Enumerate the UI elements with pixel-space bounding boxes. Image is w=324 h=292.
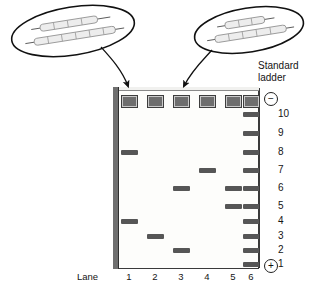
standard-ladder-caption-line2: ladder — [258, 72, 322, 84]
callout-right-label: 2, 6 — [223, 39, 263, 50]
ladder-rung-label-10: 10 — [278, 109, 292, 119]
ladder-rung-label-4: 4 — [278, 216, 292, 226]
ladder-band-9 — [243, 131, 260, 136]
gel-slab — [113, 87, 259, 269]
well-lane-3 — [173, 95, 190, 108]
ladder-band-3 — [243, 234, 260, 239]
ladder-rung-label-8: 8 — [278, 147, 292, 157]
callout-left-arrow — [101, 47, 128, 86]
callout-left-label: 4, 8 — [45, 39, 85, 50]
negative-electrode-icon: − — [264, 92, 278, 106]
ladder-band-2 — [243, 248, 260, 253]
well-lane-6 — [243, 95, 260, 108]
positive-electrode-icon: + — [264, 259, 278, 273]
lane-label-4: 4 — [198, 272, 216, 282]
band-lane-3-rung-2 — [173, 248, 190, 253]
well-lane-1 — [121, 95, 138, 108]
ladder-rung-label-2: 2 — [278, 245, 292, 255]
ladder-band-1 — [243, 262, 260, 267]
lane-label-6: 6 — [242, 272, 260, 282]
ladder-rung-label-1: 1 — [278, 259, 292, 269]
band-lane-5-rung-6 — [225, 186, 242, 191]
gel-left-edge — [113, 87, 119, 269]
ladder-rung-label-6: 6 — [278, 183, 292, 193]
callout-right-arrow — [184, 50, 212, 86]
ladder-band-7 — [243, 168, 260, 173]
band-lane-3-rung-6 — [173, 186, 190, 191]
ladder-band-4 — [243, 219, 260, 224]
callout-right-fragment-short — [217, 14, 275, 30]
callout-left-ellipse — [8, 0, 138, 64]
callout-right-ellipse — [191, 0, 307, 60]
ladder-band-8 — [243, 150, 260, 155]
standard-ladder-caption: Standard ladder — [258, 60, 322, 84]
ladder-rung-label-5: 5 — [278, 201, 292, 211]
lane-label-2: 2 — [146, 272, 164, 282]
ladder-band-6 — [243, 186, 260, 191]
lane-axis-label: Lane — [77, 272, 98, 282]
gel-top-edge — [113, 87, 259, 91]
well-lane-4 — [199, 95, 216, 108]
ladder-band-10 — [243, 112, 260, 117]
band-lane-1-rung-8 — [121, 150, 138, 155]
well-lane-2 — [147, 95, 164, 108]
ladder-rung-label-3: 3 — [278, 231, 292, 241]
callout-left-fragment-short — [31, 14, 111, 33]
ladder-rung-label-9: 9 — [278, 128, 292, 138]
band-lane-5-rung-5 — [225, 204, 242, 209]
lane-label-1: 1 — [120, 272, 138, 282]
band-lane-2-rung-3 — [147, 234, 164, 239]
band-lane-1-rung-4 — [121, 219, 138, 224]
standard-ladder-caption-line1: Standard — [258, 60, 322, 72]
lane-label-3: 3 — [172, 272, 190, 282]
well-lane-5 — [225, 95, 242, 108]
gel-electrophoresis-figure: 10987654321123456 − + Standard ladder La… — [0, 0, 324, 292]
ladder-band-5 — [243, 204, 260, 209]
ladder-rung-label-7: 7 — [278, 165, 292, 175]
lane-label-5: 5 — [224, 272, 242, 282]
band-lane-4-rung-7 — [199, 168, 216, 173]
